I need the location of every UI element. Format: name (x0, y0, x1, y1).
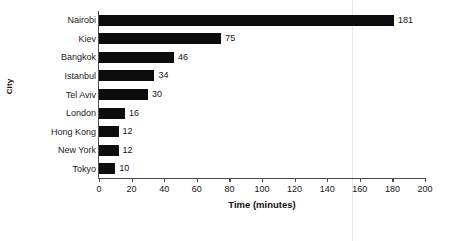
bar-row: 16 (99, 108, 425, 119)
x-axis-tick (327, 178, 328, 182)
x-axis-tick (295, 178, 296, 182)
y-axis-tick-label: Kiev (14, 33, 96, 45)
x-axis-tick (360, 178, 361, 182)
bar (99, 163, 115, 174)
y-axis-tick-labels: NairobiKievBangkokIstanbulTel AvivLondon… (14, 11, 96, 178)
bar-row: 10 (99, 163, 425, 174)
x-axis-tick-label: 200 (405, 184, 445, 194)
y-axis-tick-label: New York (14, 144, 96, 156)
y-axis-tick-label: Tel Aviv (14, 89, 96, 101)
bar-chart: City NairobiKievBangkokIstanbulTel AvivL… (0, 0, 455, 241)
x-axis-tick (229, 178, 230, 182)
y-axis-tick-label: London (14, 107, 96, 119)
bar-value-label: 12 (119, 144, 133, 156)
x-axis-tick (262, 178, 263, 182)
bar-row: 12 (99, 145, 425, 156)
bar-value-label: 181 (394, 14, 413, 26)
bar (99, 15, 394, 26)
bar (99, 89, 148, 100)
bar-row: 12 (99, 126, 425, 137)
bar (99, 70, 154, 81)
y-axis-tick-label: Tokyo (14, 163, 96, 175)
x-axis-tick (392, 178, 393, 182)
bar (99, 33, 221, 44)
plot-area: 1817546343016121210020406080100120140160… (99, 11, 425, 178)
y-axis-tick-label: Istanbul (14, 70, 96, 82)
bar-value-label: 34 (154, 69, 168, 81)
bar-value-label: 16 (125, 107, 139, 119)
bar-row: 30 (99, 89, 425, 100)
x-axis-tick (164, 178, 165, 182)
bar-value-label: 10 (115, 162, 129, 174)
bar (99, 108, 125, 119)
bar-value-label: 75 (221, 32, 235, 44)
x-axis-title: Time (minutes) (99, 199, 425, 210)
bar (99, 126, 119, 137)
bar-value-label: 30 (148, 88, 162, 100)
x-axis-tick (99, 178, 100, 182)
y-axis-title: City (5, 65, 14, 109)
bar-row: 46 (99, 52, 425, 63)
x-axis-tick (132, 178, 133, 182)
bar (99, 145, 119, 156)
bar-row: 181 (99, 15, 425, 26)
bar (99, 52, 174, 63)
x-axis-tick (425, 178, 426, 182)
x-axis-tick (197, 178, 198, 182)
y-axis-tick-label: Hong Kong (14, 126, 96, 138)
y-axis-tick-label: Nairobi (14, 14, 96, 26)
bar-value-label: 12 (119, 125, 133, 137)
y-axis-tick-label: Bangkok (14, 51, 96, 63)
bar-row: 34 (99, 70, 425, 81)
bar-row: 75 (99, 33, 425, 44)
bar-value-label: 46 (174, 51, 188, 63)
